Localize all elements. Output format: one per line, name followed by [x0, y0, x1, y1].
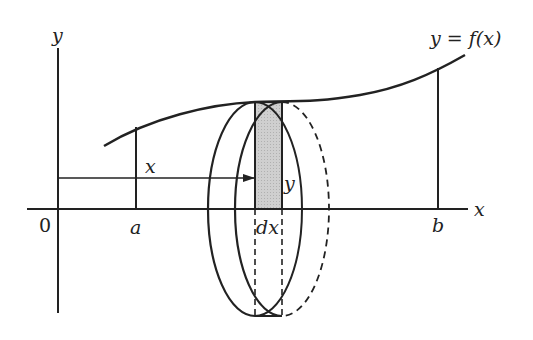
function-curve — [104, 55, 465, 146]
dx-label: dx — [256, 216, 279, 238]
x-axis-label: x — [474, 198, 485, 220]
diagram-svg: y x 0 a b dx y x y = f(x) — [0, 0, 533, 340]
radius-label: y — [283, 172, 295, 194]
disk-method-diagram: y x 0 a b dx y x y = f(x) — [0, 0, 533, 340]
a-label: a — [130, 216, 141, 238]
y-axis-label: y — [51, 24, 63, 46]
origin-label: 0 — [39, 214, 51, 236]
shaded-strip — [255, 102, 282, 209]
distance-label: x — [145, 155, 156, 177]
b-label: b — [432, 214, 444, 236]
function-label: y = f(x) — [429, 27, 501, 49]
